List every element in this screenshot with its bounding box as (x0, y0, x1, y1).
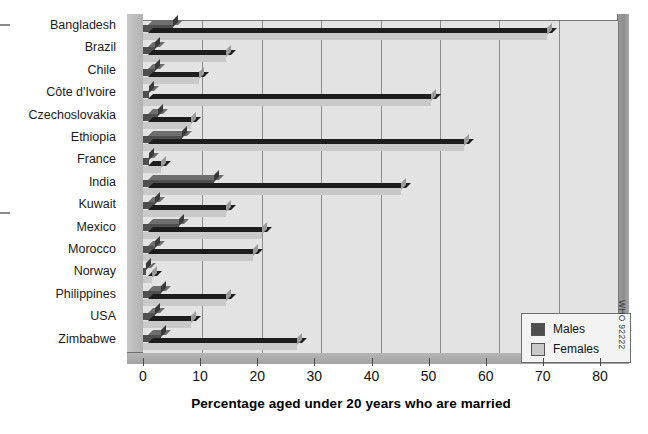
bar-female (143, 188, 401, 195)
bar-female (143, 321, 191, 328)
bar-female (143, 254, 253, 261)
bar-female (143, 99, 431, 106)
bar-front-face (143, 276, 152, 283)
legend-label-females: Females (553, 342, 599, 356)
axis-tick (314, 358, 315, 366)
axis-tick-label: 60 (478, 368, 494, 384)
axis-tick-label: 50 (421, 368, 437, 384)
bar-end-cap (297, 333, 302, 345)
axis-tick (143, 358, 144, 366)
value-axis: 01020304050607080 (143, 358, 600, 372)
bar-end-cap (226, 200, 231, 212)
bar-row (143, 132, 618, 154)
category-label: Norway (74, 260, 116, 282)
category-label: India (89, 171, 116, 193)
bar-front-face (143, 33, 547, 40)
bar-female (143, 122, 191, 129)
category-label: Czechoslovakia (28, 104, 116, 126)
bar-front-face (143, 321, 191, 328)
axis-tick-label: 40 (364, 368, 380, 384)
axis-tick-label: 0 (139, 368, 147, 384)
axis-tick-label: 80 (592, 368, 608, 384)
x-axis-title: Percentage aged under 20 years who are m… (0, 396, 648, 411)
chart-figure: BangladeshBrazilChileCôte d'IvoireCzecho… (0, 0, 648, 434)
bar-end-cap (401, 178, 406, 190)
bar-female (143, 210, 226, 217)
axis-tick-label: 10 (192, 368, 208, 384)
bar-end-cap (262, 222, 267, 234)
axis-tick (486, 358, 487, 366)
axis-tick-label: 30 (307, 368, 323, 384)
bar-row (143, 264, 618, 286)
legend-swatch-males (531, 323, 545, 336)
bar-female (143, 232, 262, 239)
bar-front-face (143, 166, 161, 173)
bar-front-face (143, 268, 146, 275)
category-label: Morocco (68, 238, 116, 260)
axis-tick (600, 358, 601, 366)
axis-tick (257, 358, 258, 366)
bar-row (143, 43, 618, 65)
bar-row (143, 242, 618, 264)
bar-female (143, 55, 226, 62)
bar-end-cap (152, 266, 157, 278)
category-label: Côte d'Ivoire (46, 81, 116, 103)
category-axis-labels: BangladeshBrazilChileCôte d'IvoireCzecho… (0, 14, 122, 350)
bar-row (143, 110, 618, 132)
category-label: Mexico (76, 216, 116, 238)
legend: Males Females (521, 313, 631, 363)
bar-row (143, 65, 618, 87)
bar-front-face (143, 144, 464, 151)
bar-front-face (143, 188, 401, 195)
bar-front-face (143, 158, 149, 165)
bar-female (143, 166, 161, 173)
category-label: Ethiopia (71, 126, 116, 148)
bar-female (143, 33, 547, 40)
bar-front-face (143, 122, 191, 129)
bar-male (143, 268, 146, 275)
axis-tick-label: 70 (535, 368, 551, 384)
axis-tick (429, 358, 430, 366)
bar-end-cap (199, 67, 204, 79)
bar-end-cap (173, 15, 178, 27)
bar-female (143, 299, 226, 306)
left-wall (127, 14, 143, 358)
plot-area-3d: Males Females (127, 14, 629, 364)
axis-tick (200, 358, 201, 366)
axis-tick (372, 358, 373, 366)
legend-label-males: Males (553, 322, 585, 336)
legend-item-females: Females (531, 340, 630, 358)
bar-female (143, 276, 152, 283)
who-credit: WHO 92222 (617, 300, 627, 349)
bar-front-face (143, 299, 226, 306)
bar-male (143, 158, 149, 165)
axis-tick (543, 358, 544, 366)
category-label: USA (90, 305, 116, 327)
bar-row (143, 176, 618, 198)
bar-front-face (143, 343, 297, 350)
axis-tick-label: 20 (249, 368, 265, 384)
bar-front-face (143, 254, 253, 261)
category-label: France (77, 148, 116, 170)
bar-row (143, 154, 618, 176)
category-label: Bangladesh (50, 14, 116, 36)
bar-front-face (143, 99, 431, 106)
bar-row (143, 287, 618, 309)
bar-end-cap (226, 45, 231, 57)
category-label: Zimbabwe (58, 328, 116, 350)
bar-row (143, 87, 618, 109)
category-label: Chile (88, 59, 117, 81)
bar-female (143, 144, 464, 151)
category-label: Kuwait (78, 193, 116, 215)
bar-end-cap (547, 23, 552, 35)
bar-row (143, 21, 618, 43)
bar-front-face (143, 232, 262, 239)
bar-front-face (143, 210, 226, 217)
bar-row (143, 220, 618, 242)
legend-swatch-females (531, 343, 545, 356)
bar-end-cap (431, 89, 436, 101)
category-label: Philippines (56, 283, 116, 305)
bar-female (143, 343, 297, 350)
bar-end-cap (253, 244, 258, 256)
category-label: Brazil (85, 36, 116, 58)
